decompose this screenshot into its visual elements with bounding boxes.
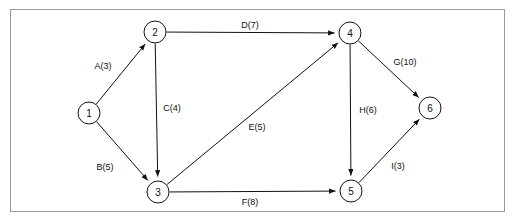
node-4: 4: [339, 22, 361, 44]
node-3: 3: [147, 181, 169, 203]
edge-label-c: C(4): [163, 103, 181, 113]
edge-label-e: E(5): [248, 122, 265, 132]
node-5: 5: [340, 180, 362, 202]
node-label-4: 4: [347, 28, 353, 39]
node-label-1: 1: [86, 108, 92, 119]
node-2: 2: [144, 21, 166, 43]
edge-g: [358, 41, 418, 98]
edge-f: [169, 191, 335, 192]
network-diagram: A(3)B(5)C(4)D(7)E(5)F(8)G(10)H(6)I(3) 12…: [0, 0, 518, 223]
node-6: 6: [419, 97, 441, 119]
edge-e: [167, 43, 338, 185]
diagram-canvas: A(3)B(5)C(4)D(7)E(5)F(8)G(10)H(6)I(3) 12…: [0, 0, 518, 223]
node-label-6: 6: [427, 103, 433, 114]
node-1: 1: [78, 102, 100, 124]
node-label-3: 3: [155, 187, 161, 198]
edge-d: [166, 32, 334, 33]
edge-labels-layer: A(3)B(5)C(4)D(7)E(5)F(8)G(10)H(6)I(3): [94, 20, 416, 207]
edge-label-f: F(8): [242, 197, 259, 207]
node-label-2: 2: [152, 27, 158, 38]
edge-label-a: A(3): [94, 61, 111, 71]
edge-c: [155, 43, 157, 176]
nodes-layer: 123456: [78, 21, 441, 203]
edge-label-g: G(10): [393, 57, 416, 67]
edge-a: [96, 44, 145, 104]
edge-label-h: H(6): [359, 105, 377, 115]
edge-label-b: B(5): [96, 162, 113, 172]
node-label-5: 5: [348, 186, 354, 197]
edge-label-i: I(3): [391, 161, 405, 171]
edge-i: [359, 119, 419, 182]
edge-label-d: D(7): [241, 20, 259, 30]
edge-h: [350, 44, 351, 175]
